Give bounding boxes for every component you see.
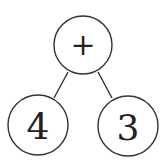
node-left-label: 4	[27, 106, 50, 147]
node-root-label: +	[70, 27, 95, 62]
node-right-label: 3	[117, 107, 140, 148]
expression-tree-diagram: + 4 3	[0, 0, 164, 168]
node-root: +	[54, 16, 112, 74]
node-left: 4	[8, 95, 68, 155]
edge-root-to-left	[54, 72, 68, 98]
edge-root-to-right	[98, 72, 112, 98]
node-right: 3	[98, 96, 158, 156]
